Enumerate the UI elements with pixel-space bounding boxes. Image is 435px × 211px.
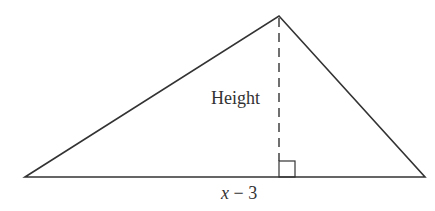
right-angle-marker: [279, 161, 295, 177]
base-expression: − 3: [229, 183, 257, 203]
height-label: Height: [211, 88, 260, 109]
base-variable: x: [221, 183, 229, 203]
triangle-diagram: Height x − 3: [0, 0, 435, 211]
base-label: x − 3: [221, 183, 257, 204]
